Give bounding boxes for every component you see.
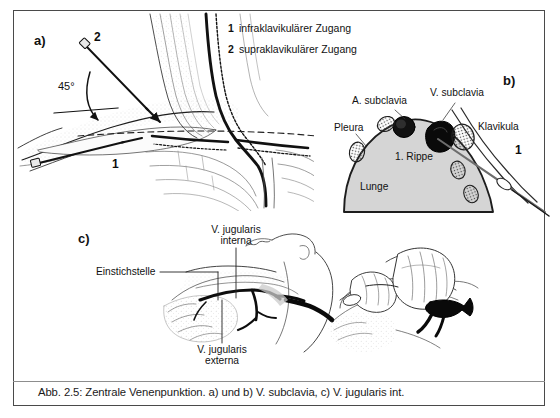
legend-number-2: 2 bbox=[228, 43, 239, 55]
caption-divider bbox=[13, 381, 545, 382]
label-jugularis-externa-line2: externa bbox=[205, 355, 239, 366]
legend-item-2: 2 supraklavikulärer Zugang bbox=[228, 43, 438, 55]
label-arteria-subclavia: A. subclavia bbox=[352, 95, 407, 106]
figure-caption: Abb. 2.5: Zentrale Venenpunktion. a) und… bbox=[38, 386, 538, 398]
panel-b-marker-1: 1 bbox=[515, 143, 522, 157]
label-pleura: Pleura bbox=[334, 122, 363, 133]
angle-label-45: 45° bbox=[58, 81, 75, 93]
panel-c-letter: c) bbox=[78, 231, 90, 246]
label-lunge: Lunge bbox=[360, 181, 388, 192]
panel-a-letter: a) bbox=[34, 33, 46, 48]
label-klavikula: Klavikula bbox=[478, 121, 519, 132]
panel-a-marker-2: 2 bbox=[94, 30, 101, 44]
label-jugularis-interna-line2: interna bbox=[220, 235, 251, 246]
legend-label-2: supraklavikulärer Zugang bbox=[239, 43, 357, 55]
label-erste-rippe: 1. Rippe bbox=[395, 151, 433, 162]
legend-number-1: 1 bbox=[228, 22, 239, 34]
panel-a-marker-1: 1 bbox=[112, 157, 119, 171]
label-jugularis-externa-line1: V. jugularis bbox=[197, 344, 246, 355]
legend-label-1: infraklavikulärer Zugang bbox=[239, 22, 351, 34]
label-vena-subclavia: V. subclavia bbox=[430, 87, 484, 98]
label-jugularis-interna-line1: V. jugularis bbox=[211, 224, 260, 235]
label-einstichstelle: Einstichstelle bbox=[96, 266, 155, 277]
legend-item-1: 1 infraklavikulärer Zugang bbox=[228, 22, 438, 34]
panel-b-letter: b) bbox=[503, 73, 515, 88]
panel-a-legend: 1 infraklavikulärer Zugang 2 supraklavik… bbox=[228, 22, 438, 64]
